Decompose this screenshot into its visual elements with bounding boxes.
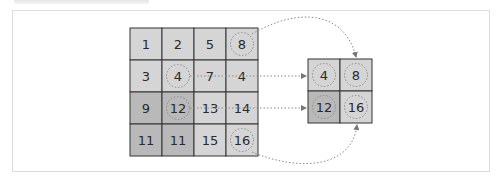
output-grid: 481216	[308, 59, 372, 123]
cell-value: 4	[174, 69, 182, 84]
output-cell: 4	[308, 59, 340, 91]
input-grid: 12583474912131411111516	[130, 28, 258, 156]
cell-value: 12	[316, 100, 333, 115]
input-cell: 3	[130, 60, 162, 92]
input-cell: 9	[130, 92, 162, 124]
input-cell: 2	[162, 28, 194, 60]
cell-value: 15	[202, 133, 219, 148]
cell-value: 5	[206, 37, 214, 52]
cell-value: 2	[174, 37, 182, 52]
pooling-diagram: 12583474912131411111516 481216	[0, 0, 499, 180]
cell-value: 1	[142, 37, 150, 52]
input-cell: 16	[226, 124, 258, 156]
input-cell: 11	[130, 124, 162, 156]
input-cell: 8	[226, 28, 258, 60]
input-cell: 7	[194, 60, 226, 92]
cell-value: 8	[352, 68, 360, 83]
cell-value: 12	[170, 101, 187, 116]
cell-value: 16	[234, 133, 251, 148]
input-cell: 1	[130, 28, 162, 60]
cell-value: 16	[348, 100, 365, 115]
output-cell: 8	[340, 59, 372, 91]
cell-value: 11	[170, 133, 187, 148]
cell-value: 9	[142, 101, 150, 116]
output-cell: 16	[340, 91, 372, 123]
input-cell: 5	[194, 28, 226, 60]
arrow-16	[252, 125, 357, 164]
input-cell: 12	[162, 92, 194, 124]
cell-value: 8	[238, 37, 246, 52]
input-cell: 13	[194, 92, 226, 124]
cell-value: 11	[138, 133, 155, 148]
input-cell: 15	[194, 124, 226, 156]
cell-value: 3	[142, 69, 150, 84]
input-cell: 4	[162, 60, 194, 92]
input-cell: 11	[162, 124, 194, 156]
output-cell: 12	[308, 91, 340, 123]
cell-value: 7	[206, 69, 214, 84]
cell-value: 4	[320, 68, 328, 83]
arrow-8	[252, 17, 356, 57]
